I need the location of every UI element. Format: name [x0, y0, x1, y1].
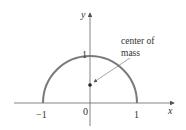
y-tick-one: 1: [82, 49, 87, 60]
origin-label: 0: [83, 106, 88, 117]
y-axis-label: y: [80, 9, 86, 20]
annotation-line1: center of: [121, 36, 155, 46]
x-tick-neg-one: −1: [36, 109, 47, 120]
x-axis-label: x: [167, 105, 173, 116]
x-tick-one: 1: [134, 109, 139, 120]
center-of-mass-point: [88, 83, 92, 87]
semicircle-diagram: y x 1 −1 0 1 center of mass: [0, 0, 186, 130]
annotation-line2: mass: [121, 48, 140, 58]
